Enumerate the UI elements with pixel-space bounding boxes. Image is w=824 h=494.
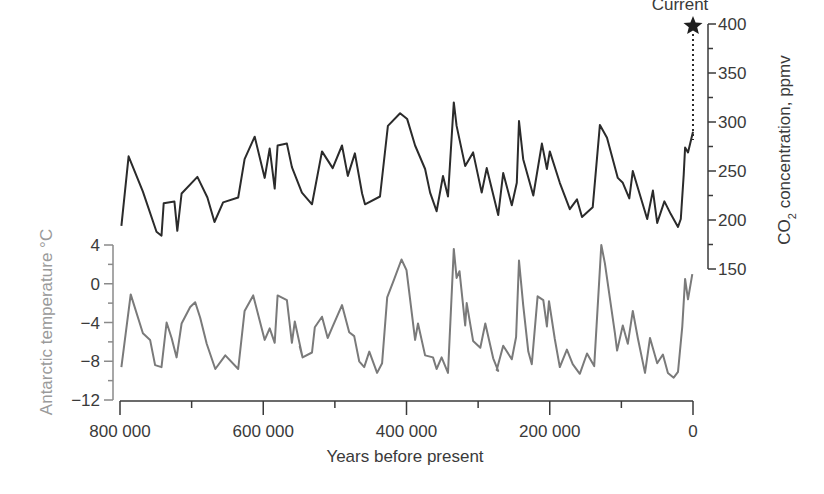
x-tick-label: 0 — [688, 422, 697, 441]
co2-tick-label: 300 — [718, 113, 746, 132]
temperature-tick-label: 0 — [91, 275, 100, 294]
co2-tick-label: 400 — [718, 15, 746, 34]
ice-core-chart: 150200250300350400 CO2 concentration, pp… — [0, 0, 824, 494]
co2-tick-label: 250 — [718, 162, 746, 181]
co2-tick-label: 150 — [718, 260, 746, 279]
temperature-axis: −12−8−404 Antarctic temperature °C — [37, 229, 113, 415]
current-annotation: Current — [652, 0, 709, 140]
co2-axis: 150200250300350400 CO2 concentration, pp… — [708, 15, 798, 279]
temperature-tick-label: −12 — [71, 391, 100, 410]
x-tick-label: 200 000 — [519, 422, 580, 441]
temperature-tick-label: 4 — [91, 236, 100, 255]
x-tick-label: 400 000 — [376, 422, 437, 441]
x-axis: 800 000600 000400 000200 0000 Years befo… — [89, 401, 697, 466]
star-icon — [684, 16, 703, 34]
co2-tick-label: 200 — [718, 211, 746, 230]
temperature-tick-label: −4 — [81, 314, 100, 333]
co2-tick-label: 350 — [718, 64, 746, 83]
temperature-tick-label: −8 — [81, 352, 100, 371]
x-tick-label: 800 000 — [89, 422, 150, 441]
co2-series-line — [121, 102, 693, 235]
current-label: Current — [652, 0, 709, 14]
x-axis-title: Years before present — [326, 447, 483, 466]
temperature-axis-title: Antarctic temperature °C — [37, 229, 56, 415]
co2-axis-title: CO2 concentration, ppmv — [775, 55, 798, 245]
x-tick-label: 600 000 — [233, 422, 294, 441]
temperature-series-line — [121, 245, 692, 378]
